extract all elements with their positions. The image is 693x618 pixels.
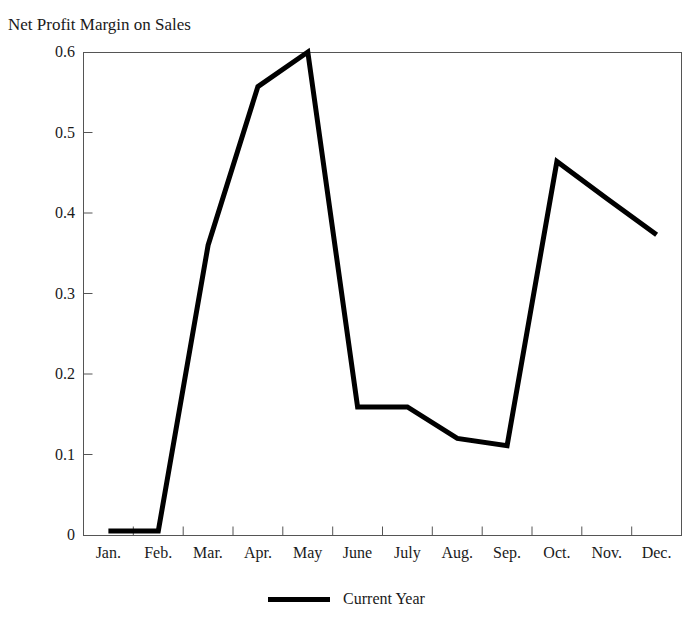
x-tick-label-jan: Jan. [83,545,133,561]
x-tick-label-nov: Nov. [582,545,632,561]
legend-label-current-year: Current Year [343,591,425,607]
chart-figure: Net Profit Margin on Sales 0.6 0.5 0.4 0… [0,0,693,618]
y-tick-label-0.6: 0.6 [5,44,75,60]
x-tick-label-july: July [383,545,433,561]
chart-legend: Current Year [0,586,693,612]
legend-swatch-current-year [268,597,330,602]
y-tick-label-0.5: 0.5 [5,125,75,141]
x-tick-label-apr: Apr. [233,545,283,561]
x-tick-label-sep: Sep. [482,545,532,561]
x-tick-label-june: June [333,545,383,561]
y-tick-label-0.1: 0.1 [5,447,75,463]
x-tick-label-may: May [283,545,333,561]
x-tick-label-aug: Aug. [432,545,482,561]
plot-frame [84,53,682,536]
x-tick-label-mar: Mar. [183,545,233,561]
y-tick-label-0.4: 0.4 [5,205,75,221]
y-tick-label-0.3: 0.3 [5,286,75,302]
y-tick-label-0: 0 [5,527,75,543]
x-tick-label-dec: Dec. [632,545,682,561]
x-tick-label-oct: Oct. [532,545,582,561]
y-tick-label-0.2: 0.2 [5,366,75,382]
plot-area [0,0,693,618]
x-tick-label-feb: Feb. [133,545,183,561]
